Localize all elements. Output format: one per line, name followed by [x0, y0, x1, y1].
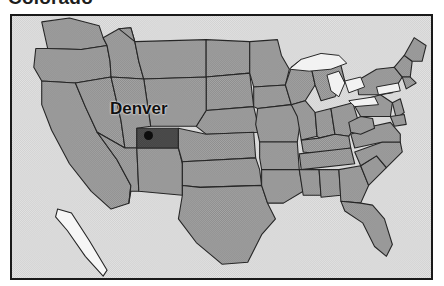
- state-arkansas: [260, 142, 300, 170]
- state-kansas: [178, 128, 255, 161]
- city-dot-marker: [144, 131, 153, 140]
- state-north-dakota: [206, 40, 250, 77]
- us-map-svg: [12, 16, 431, 278]
- state-south-dakota: [206, 73, 254, 110]
- state-colorado-highlighted: [137, 128, 179, 148]
- city-label-denver: Denver: [110, 99, 168, 119]
- page-title: Colorado: [8, 0, 93, 9]
- map-page: Colorado: [0, 0, 444, 286]
- state-oregon: [34, 46, 111, 83]
- state-mississippi: [299, 170, 321, 196]
- state-oklahoma: [182, 158, 261, 188]
- map-frame: [10, 14, 433, 280]
- state-alabama: [319, 170, 341, 198]
- state-new-mexico: [137, 148, 183, 195]
